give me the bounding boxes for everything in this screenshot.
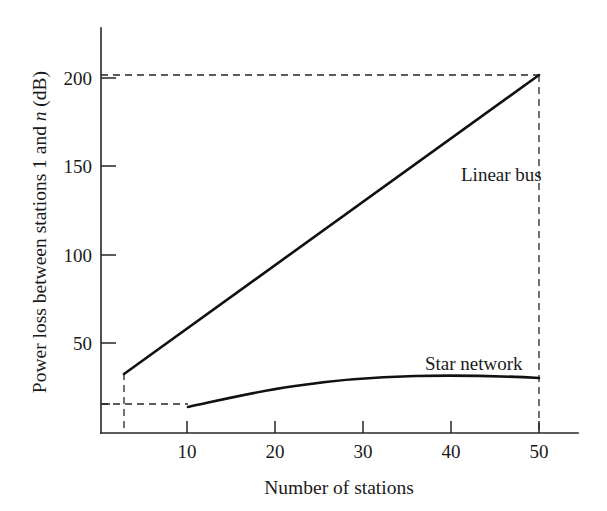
y-tick-label-100: 100 (64, 245, 93, 266)
guide-lines-group (101, 75, 539, 433)
y-axis-title-part-2: (dB) (29, 71, 51, 112)
x-tick-label-40: 40 (442, 441, 461, 462)
y-axis-title-italic-n: n (29, 111, 50, 121)
series-annotations: Linear bus Star network (425, 164, 542, 374)
x-axis-ticks: 10 20 30 40 50 (178, 421, 549, 462)
x-tick-label-20: 20 (266, 441, 285, 462)
series-label-star-network: Star network (425, 353, 523, 374)
x-tick-label-10: 10 (178, 441, 197, 462)
x-tick-label-50: 50 (530, 441, 549, 462)
series-label-linear-bus: Linear bus (461, 164, 542, 185)
series-line-star-network (188, 376, 539, 407)
y-tick-label-150: 150 (64, 156, 93, 177)
x-axis-title: Number of stations (264, 477, 413, 498)
y-axis-title-part-1: Power loss between stations 1 and (29, 121, 50, 393)
figure-container: 200 150 100 50 10 20 30 40 50 (0, 0, 607, 511)
y-axis-title: Power loss between stations 1 and n (dB) (29, 71, 51, 393)
y-tick-label-200: 200 (64, 68, 93, 89)
y-axis-ticks: 200 150 100 50 (64, 68, 117, 404)
x-tick-label-30: 30 (354, 441, 373, 462)
y-tick-label-50: 50 (73, 333, 92, 354)
axis-titles: Number of stations Power loss between st… (29, 71, 414, 498)
power-loss-line-chart: 200 150 100 50 10 20 30 40 50 (0, 0, 607, 511)
series-line-linear-bus (124, 75, 539, 374)
